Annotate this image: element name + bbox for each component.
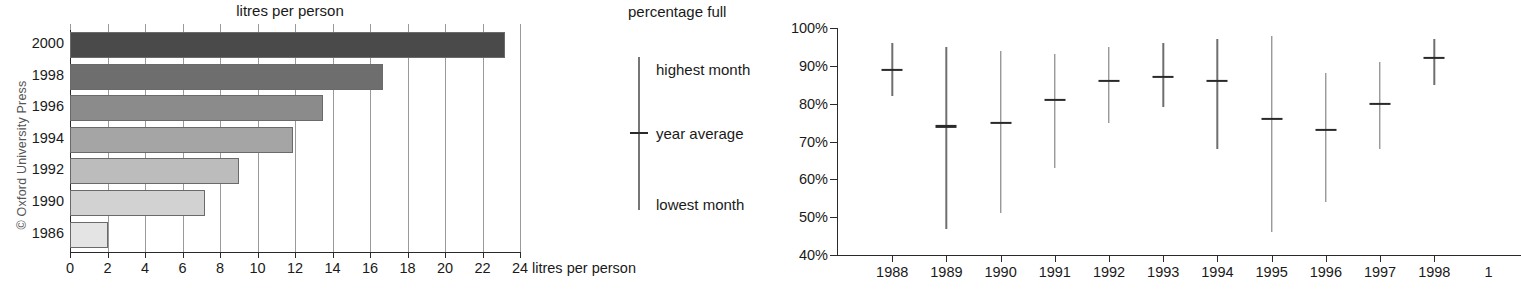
- bar-chart-x-tick-label: 24: [512, 260, 528, 276]
- legend-average-tick-icon: [630, 132, 648, 134]
- bar-chart-bar: [70, 32, 505, 58]
- range-chart-y-tick: [830, 66, 837, 67]
- bar-chart-x-tick: [408, 252, 409, 258]
- bar-chart-category-label: 1992: [32, 161, 64, 177]
- range-chart-x-tick-label: 1990: [984, 264, 1016, 280]
- range-chart-x-tick: [1272, 256, 1273, 262]
- bar-chart-bar: [70, 95, 323, 121]
- range-chart-y-tick-label: 90%: [799, 58, 828, 74]
- bar-chart-x-tick-label: 22: [474, 260, 490, 276]
- range-chart-y-tick: [830, 217, 837, 218]
- range-chart-x-tick: [1380, 256, 1381, 262]
- range-chart-average-marker: [1370, 103, 1391, 105]
- range-chart-y-tick-label: 60%: [799, 171, 828, 187]
- bar-chart-bar: [70, 64, 383, 90]
- bar-chart-x-tick: [333, 252, 334, 258]
- bar-chart-row: 2000: [70, 32, 520, 58]
- bar-chart-row: 1990: [70, 190, 520, 216]
- range-chart-y-tick-label: 70%: [799, 134, 828, 150]
- range-chart-x-tick-label-partial: 1: [1484, 264, 1492, 280]
- legend-label-highest-month: highest month: [656, 61, 750, 78]
- bar-chart-x-tick: [258, 252, 259, 258]
- bar-chart-category-label: 1996: [32, 98, 64, 114]
- bar-chart-top-tick: [258, 24, 259, 30]
- range-chart-y-tick: [830, 104, 837, 105]
- bar-chart-gridline: [520, 30, 521, 252]
- range-chart-y-tick: [830, 179, 837, 180]
- bar-chart-plot-area: 2000199819961994199219901986: [70, 30, 520, 252]
- range-chart-y-tick-label: 50%: [799, 209, 828, 225]
- bar-chart-bar: [70, 158, 239, 184]
- bar-chart-x-tick: [370, 252, 371, 258]
- bar-chart-top-tick: [220, 24, 221, 30]
- range-chart-x-tick-label: 1995: [1256, 264, 1288, 280]
- range-chart-x-tick: [946, 256, 947, 262]
- bar-chart-top-tick: [108, 24, 109, 30]
- bar-chart-top-tick: [183, 24, 184, 30]
- bar-chart-bar: [70, 190, 205, 216]
- range-chart-range-bar: [1217, 39, 1218, 149]
- bar-chart-x-tick: [295, 252, 296, 258]
- range-chart-x-tick: [1001, 256, 1002, 262]
- range-chart-range-bar: [1000, 51, 1001, 214]
- range-chart-x-tick-label: 1991: [1039, 264, 1071, 280]
- range-chart-average-marker: [990, 121, 1011, 123]
- range-chart-x-tick-label: 1992: [1093, 264, 1125, 280]
- bar-chart-x-tick-label: 6: [178, 260, 186, 276]
- range-chart-average-marker: [1153, 76, 1174, 78]
- bar-chart-x-tick: [145, 252, 146, 258]
- bar-chart-category-label: 1990: [32, 193, 64, 209]
- range-chart-average-marker: [1044, 99, 1065, 101]
- range-chart-range-bar: [1325, 73, 1326, 202]
- bar-chart-top-tick: [333, 24, 334, 30]
- range-chart-x-tick: [1326, 256, 1327, 262]
- bar-chart-bar: [70, 127, 293, 153]
- range-chart-range-bar: [1108, 47, 1109, 123]
- range-chart-x-tick: [1163, 256, 1164, 262]
- bar-chart-x-tick-label: 14: [324, 260, 340, 276]
- bar-chart-row: 1986: [70, 222, 520, 248]
- range-chart-x-tick-label: 1989: [930, 264, 962, 280]
- bar-chart-category-label: 1998: [32, 67, 64, 83]
- range-chart-range-bar: [1434, 39, 1435, 84]
- range-chart-range-bar: [946, 47, 947, 229]
- range-chart-average-marker: [882, 69, 903, 71]
- range-chart-average-marker: [1424, 57, 1445, 59]
- range-chart-x-tick-label: 1993: [1147, 264, 1179, 280]
- legend-label-lowest-month: lowest month: [656, 196, 744, 213]
- bar-chart-x-tick-label: 16: [362, 260, 378, 276]
- bar-chart-top-tick: [408, 24, 409, 30]
- bar-chart-x-tick: [70, 252, 71, 258]
- bar-chart-x-tick-label: 20: [437, 260, 453, 276]
- bar-chart-row: 1996: [70, 95, 520, 121]
- range-chart-x-tick: [1109, 256, 1110, 262]
- range-chart-average-marker: [1315, 129, 1336, 131]
- range-chart-average-marker: [936, 125, 957, 127]
- bar-chart-x-tick: [445, 252, 446, 258]
- range-chart-y-tick-label: 40%: [799, 247, 828, 263]
- bar-chart-top-tick: [483, 24, 484, 30]
- bar-chart-x-tick: [108, 252, 109, 258]
- bar-chart-x-tick-label: 8: [216, 260, 224, 276]
- litres-per-person-bar-chart: litres per person 2000199819961994199219…: [0, 0, 620, 299]
- range-chart-average-marker: [1099, 80, 1120, 82]
- bar-chart-x-tick: [483, 252, 484, 258]
- bar-chart-top-tick: [445, 24, 446, 30]
- bar-chart-category-label: 1994: [32, 130, 64, 146]
- range-chart-x-axis: [837, 255, 1521, 256]
- bar-chart-top-tick: [520, 24, 521, 30]
- range-chart-x-tick-label: 1996: [1310, 264, 1342, 280]
- bar-chart-x-tick: [520, 252, 521, 258]
- bar-chart-bar: [70, 222, 108, 248]
- range-chart-y-tick-label: 100%: [791, 20, 828, 36]
- bar-chart-top-tick: [145, 24, 146, 30]
- legend-title: percentage full: [628, 3, 726, 20]
- range-chart-plot-area: [838, 28, 1521, 255]
- range-chart-average-marker: [1261, 118, 1282, 120]
- range-chart-x-tick: [1055, 256, 1056, 262]
- bar-chart-x-tick-label: 18: [399, 260, 415, 276]
- range-chart-y-tick: [830, 28, 837, 29]
- range-chart-x-tick: [1434, 256, 1435, 262]
- bar-chart-category-label: 2000: [32, 35, 64, 51]
- bar-chart-title: litres per person: [140, 2, 440, 19]
